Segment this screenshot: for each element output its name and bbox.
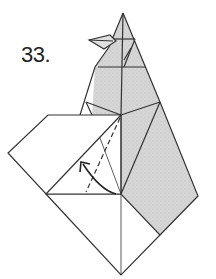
origami-diagram xyxy=(0,0,216,279)
left-flap xyxy=(8,115,121,194)
